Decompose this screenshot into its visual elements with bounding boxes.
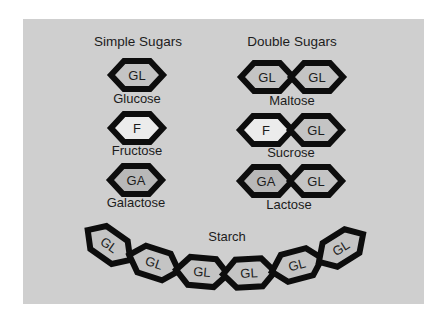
galactose-unit-label: GA — [127, 173, 146, 188]
galactose-label: Galactose — [107, 195, 166, 210]
sucrose-label: Sucrose — [267, 145, 315, 160]
maltose-unit-1-label: GL — [258, 70, 275, 85]
sucrose-unit-2-label: GL — [307, 123, 324, 138]
sugar-diagram: GL F GA GL GL F GL GA GL GL GL GL GL GL … — [0, 0, 445, 316]
glucose-label: Glucose — [113, 91, 161, 106]
fructose-label: Fructose — [112, 143, 163, 158]
sucrose-unit-1-label: F — [262, 123, 270, 138]
starch-unit-3-label: GL — [193, 264, 212, 280]
simple-sugars-heading: Simple Sugars — [94, 34, 182, 49]
fructose-unit-label: F — [133, 121, 141, 136]
lactose-unit-2-label: GL — [307, 174, 324, 189]
lactose-unit-1-label: GA — [257, 174, 276, 189]
glucose-unit-label: GL — [128, 68, 145, 83]
maltose-unit-2-label: GL — [308, 70, 325, 85]
lactose-label: Lactose — [266, 197, 312, 212]
double-sugars-heading: Double Sugars — [247, 34, 336, 49]
starch-unit-4-label: GL — [240, 265, 258, 281]
starch-label: Starch — [208, 229, 246, 244]
maltose-label: Maltose — [269, 93, 315, 108]
